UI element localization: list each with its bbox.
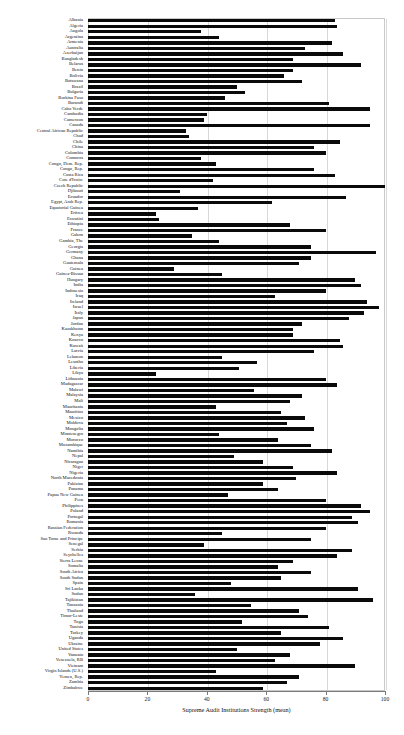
bar [88, 223, 290, 226]
x-tick [326, 691, 327, 695]
y-axis-label: Guatemala [63, 261, 83, 266]
bar [88, 493, 228, 496]
bar [88, 527, 326, 530]
bar [88, 273, 222, 276]
bar [88, 107, 370, 110]
y-axis-label: Bulgaria [67, 90, 83, 95]
bar [88, 151, 326, 154]
bar [88, 648, 237, 651]
bar [88, 140, 340, 143]
bar [88, 543, 204, 546]
x-tick [147, 691, 148, 695]
bar [88, 620, 242, 623]
bar [88, 405, 216, 408]
bar [88, 306, 379, 309]
bar [88, 80, 302, 83]
bar [88, 267, 174, 270]
bar [88, 311, 364, 314]
bar [88, 422, 287, 425]
bar [88, 471, 337, 474]
bar [88, 449, 332, 452]
bar [88, 378, 326, 381]
bar [88, 642, 320, 645]
bar [88, 345, 343, 348]
bar [88, 146, 314, 149]
bar [88, 278, 355, 281]
bar [88, 411, 281, 414]
bar [88, 504, 361, 507]
y-axis-labels: AlbaniaAlgeriaAngolaArgentinaArmeniaAust… [0, 18, 86, 691]
bar [88, 372, 156, 375]
bar [88, 383, 337, 386]
bar [88, 350, 314, 353]
bar [88, 91, 245, 94]
x-tick [207, 691, 208, 695]
y-axis-label: Moldova [66, 421, 83, 426]
bar [88, 317, 349, 320]
bar [88, 482, 263, 485]
bar [88, 102, 329, 105]
y-axis-label: Sudan [72, 592, 83, 597]
bar-chart: AlbaniaAlgeriaAngolaArgentinaArmeniaAust… [0, 0, 404, 735]
x-tick-label: 40 [204, 696, 210, 702]
bar [88, 135, 189, 138]
y-axis-label: Guinea-Bissau [56, 272, 83, 277]
bar [88, 262, 299, 265]
bar [88, 124, 370, 127]
bar [88, 96, 225, 99]
bar [88, 361, 257, 364]
bar [88, 113, 207, 116]
bar [88, 516, 352, 519]
bar [88, 488, 278, 491]
bar [88, 157, 201, 160]
x-tick [88, 691, 89, 695]
bar [88, 207, 198, 210]
bar [88, 218, 159, 221]
bar [88, 190, 180, 193]
bar [88, 675, 299, 678]
x-tick-label: 20 [145, 696, 151, 702]
y-axis-label: Montenegro [61, 432, 83, 437]
y-axis-label: Botswana [65, 79, 83, 84]
y-axis-label: South Africa [60, 570, 83, 575]
bar [88, 576, 281, 579]
x-tick-label: 100 [381, 696, 389, 702]
bar [88, 168, 314, 171]
bar [88, 615, 308, 618]
bar [88, 510, 370, 513]
x-tick-label: 0 [87, 696, 90, 702]
bar [88, 212, 156, 215]
y-axis-label: Tanzania [66, 603, 83, 608]
bar [88, 256, 311, 259]
bar [88, 637, 343, 640]
bar [88, 69, 293, 72]
bar [88, 25, 337, 28]
bar [88, 532, 222, 535]
bar [88, 58, 293, 61]
bar [88, 400, 290, 403]
bar [88, 322, 302, 325]
bar [88, 185, 385, 188]
bar [88, 162, 216, 165]
bar [88, 653, 290, 656]
bar [88, 427, 314, 430]
bar [88, 499, 326, 502]
bar [88, 560, 293, 563]
bar [88, 118, 204, 121]
bar [88, 521, 358, 524]
bar [88, 681, 287, 684]
bar [88, 394, 302, 397]
y-axis-label: Zimbabwe [63, 686, 83, 691]
bar [88, 549, 352, 552]
y-axis-label: Gambia, The [59, 239, 83, 244]
bar [88, 63, 361, 66]
bar [88, 74, 284, 77]
bar [88, 538, 311, 541]
bar [88, 85, 237, 88]
bar [88, 36, 219, 39]
bar [88, 179, 213, 182]
x-tick [385, 691, 386, 695]
bar [88, 129, 186, 132]
bar [88, 438, 278, 441]
bar [88, 460, 263, 463]
